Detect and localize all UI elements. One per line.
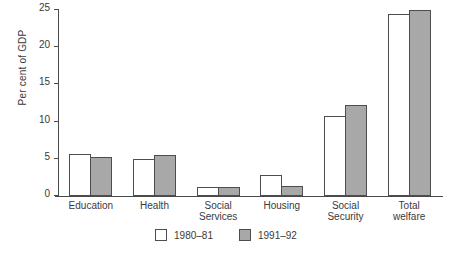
x-axis-label-line: Social	[199, 200, 237, 211]
x-axis-label: SocialSecurity	[327, 200, 363, 222]
bar-1991-92[interactable]	[90, 157, 112, 196]
x-axis-line	[55, 196, 443, 197]
bars	[260, 10, 303, 196]
y-tick-1: 5	[54, 158, 59, 159]
bar-group: Education	[69, 10, 112, 196]
bar-1991-92[interactable]	[345, 105, 367, 197]
x-axis-label-line: Total	[393, 200, 425, 211]
legend-swatch-white	[155, 229, 167, 241]
bar-1980-81[interactable]	[133, 159, 155, 196]
x-axis-label-line: Security	[327, 211, 363, 222]
bar-1991-92[interactable]	[409, 10, 431, 196]
y-tick-2: 10	[54, 121, 59, 122]
x-axis-label-line: Health	[140, 200, 169, 211]
legend: 1980–811991–92	[0, 229, 452, 241]
bar-group: Totalwelfare	[388, 10, 431, 196]
legend-item[interactable]: 1980–81	[155, 229, 213, 241]
legend-item[interactable]: 1991–92	[239, 229, 297, 241]
bar-group: SocialServices	[197, 10, 240, 196]
bars	[133, 10, 176, 196]
legend-label: 1991–92	[258, 230, 297, 241]
x-axis-label: SocialServices	[199, 200, 237, 222]
x-axis-label-line: welfare	[393, 211, 425, 222]
y-tick-4: 20	[54, 46, 59, 47]
bars	[388, 10, 431, 196]
legend-label: 1980–81	[174, 230, 213, 241]
bar-group: SocialSecurity	[324, 10, 367, 196]
bar-1980-81[interactable]	[324, 116, 346, 196]
x-axis-label-line: Social	[327, 200, 363, 211]
x-axis-label: Housing	[263, 200, 300, 211]
bar-1980-81[interactable]	[69, 154, 91, 196]
bar-1980-81[interactable]	[388, 14, 410, 196]
x-axis-label: Health	[140, 200, 169, 211]
bar-1991-92[interactable]	[218, 187, 240, 196]
x-axis-label-line: Housing	[263, 200, 300, 211]
x-axis-label: Totalwelfare	[393, 200, 425, 222]
bar-1991-92[interactable]	[154, 155, 176, 196]
bar-chart: Per cent of GDP 0510152025 EducationHeal…	[0, 0, 452, 254]
y-tick-label: 10	[39, 114, 50, 125]
bars	[69, 10, 112, 196]
plot-area: 0510152025 EducationHealthSocialServices…	[59, 10, 441, 196]
bars	[324, 10, 367, 196]
y-axis-line	[58, 10, 59, 197]
bars	[197, 10, 240, 196]
y-tick-label: 5	[44, 151, 50, 162]
bar-1980-81[interactable]	[260, 175, 282, 196]
bar-1991-92[interactable]	[281, 186, 303, 196]
legend-swatch-grey	[239, 229, 251, 241]
y-tick-label: 15	[39, 76, 50, 87]
bar-group: Housing	[260, 10, 303, 196]
bar-1980-81[interactable]	[197, 187, 219, 196]
x-axis-label-line: Education	[69, 200, 113, 211]
y-axis-title: Per cent of GDP	[17, 8, 28, 128]
y-tick-0: 0	[54, 195, 59, 196]
y-tick-5: 25	[54, 9, 59, 10]
bar-group: Health	[133, 10, 176, 196]
x-axis-label-line: Services	[199, 211, 237, 222]
y-tick-label: 0	[44, 188, 50, 199]
y-tick-label: 25	[39, 2, 50, 13]
x-axis-label: Education	[69, 200, 113, 211]
y-tick-label: 20	[39, 39, 50, 50]
y-tick-3: 15	[54, 83, 59, 84]
